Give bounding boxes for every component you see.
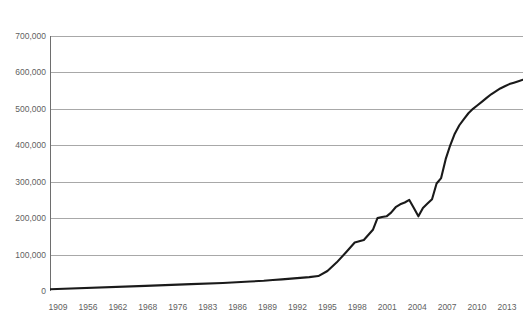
x-tick-label: 1956 — [78, 301, 97, 313]
x-tick-label: 1998 — [348, 301, 367, 313]
x-tick-label: 1992 — [288, 301, 307, 313]
x-tick-label: 2010 — [468, 301, 487, 313]
x-tick-label: 1986 — [228, 301, 247, 313]
x-tick-label: 1995 — [318, 301, 337, 313]
y-tick-label: 200,000 — [0, 214, 46, 223]
line-chart: 0100,000200,000300,000400,000500,000600,… — [0, 0, 532, 328]
y-tick-label: 0 — [0, 287, 46, 296]
x-tick-label: 1909 — [49, 301, 68, 313]
x-tick-label: 1962 — [108, 301, 127, 313]
gridlines — [50, 37, 523, 292]
plot-area — [50, 36, 523, 291]
x-tick-label: 1968 — [138, 301, 157, 313]
x-tick-label: 1976 — [168, 301, 187, 313]
plot-svg — [50, 36, 523, 291]
y-tick-label: 400,000 — [0, 141, 46, 150]
data-series-line — [50, 80, 523, 289]
x-tick-label: 2004 — [408, 301, 427, 313]
x-tick-label: 2007 — [438, 301, 457, 313]
y-tick-label: 100,000 — [0, 250, 46, 259]
x-tick-label: 1983 — [198, 301, 217, 313]
y-tick-label: 500,000 — [0, 104, 46, 113]
x-tick-label: 1989 — [258, 301, 277, 313]
x-tick-label: 2001 — [378, 301, 397, 313]
y-tick-label: 600,000 — [0, 68, 46, 77]
chart-title — [0, 0, 532, 2]
x-axis: 1909195619621968197619831986198919921995… — [0, 301, 532, 317]
y-axis: 0100,000200,000300,000400,000500,000600,… — [0, 36, 46, 291]
x-tick-label: 2013 — [498, 301, 517, 313]
y-tick-label: 300,000 — [0, 177, 46, 186]
y-tick-label: 700,000 — [0, 32, 46, 41]
